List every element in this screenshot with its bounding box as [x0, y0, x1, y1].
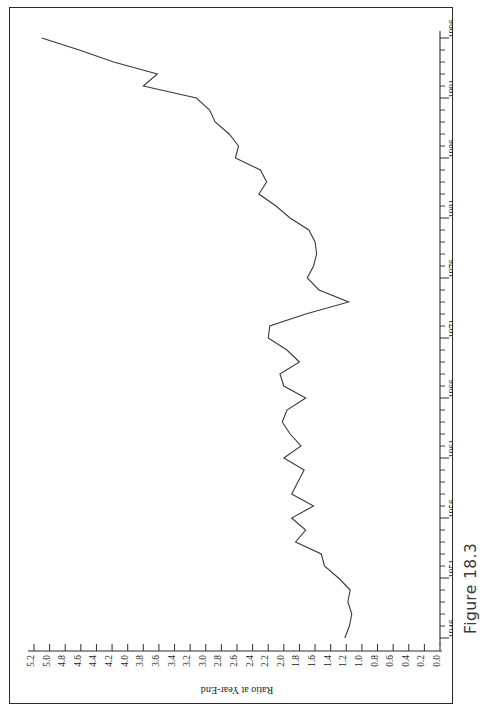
ratio-tick-label: 4.6: [73, 655, 83, 667]
figure-caption: Figure 18.3: [462, 543, 480, 634]
ratio-tick-label: 0.8: [370, 655, 380, 667]
ratio-tick-label: 2.0: [276, 655, 286, 667]
year-tick-label: 1976: [448, 259, 453, 278]
year-tick-label: 1996: [448, 19, 453, 38]
ratio-tick-label: 3.8: [135, 655, 145, 667]
ratio-tick-label: 1.8: [291, 655, 301, 667]
ratio-series-path: [42, 38, 352, 638]
year-tick-label: 1966: [448, 379, 453, 398]
ratio-tick-label: 0.6: [385, 655, 395, 667]
ratio-at-year-end-line-chart: 0.00.20.40.60.81.01.21.41.61.82.02.22.42…: [9, 7, 453, 704]
ratio-tick-label: 3.2: [182, 655, 192, 667]
chart-canvas: 0.00.20.40.60.81.01.21.41.61.82.02.22.42…: [9, 7, 453, 704]
ratio-tick-label: 3.4: [167, 655, 177, 667]
ratio-axis-title: Ratio at Year-End: [201, 685, 274, 696]
year-tick-label: 1961: [448, 439, 453, 458]
ratio-tick-label: 2.4: [245, 655, 255, 667]
ratio-tick-label: 1.0: [354, 655, 364, 667]
ratio-tick-label: 5.0: [42, 655, 52, 667]
ratio-tick-label: 2.2: [260, 655, 270, 667]
ratio-tick-label: 1.2: [338, 655, 348, 667]
year-tick-label: 1956: [448, 499, 453, 518]
ratio-tick-label: 1.6: [307, 655, 317, 667]
ratio-axis: 0.00.20.40.60.81.01.21.41.61.82.02.22.42…: [26, 644, 442, 667]
year-tick-label: 1981: [448, 199, 453, 218]
ratio-tick-label: 3.6: [151, 655, 161, 667]
ratio-tick-label: 4.8: [57, 655, 67, 667]
ratio-tick-label: 1.4: [323, 655, 333, 667]
year-axis: 1946195119561961196619711976198119861991…: [440, 19, 453, 645]
ratio-tick-label: 4.0: [120, 655, 130, 667]
ratio-tick-label: 5.2: [26, 655, 36, 667]
data-series-line: [42, 38, 352, 638]
ratio-tick-label: 0.2: [416, 655, 426, 667]
ratio-tick-label: 0.4: [401, 655, 411, 667]
ratio-tick-label: 4.2: [104, 655, 114, 667]
ratio-tick-label: 2.6: [229, 655, 239, 667]
figure-page: 0.00.20.40.60.81.01.21.41.61.82.02.22.42…: [0, 0, 502, 723]
ratio-tick-label: 2.8: [213, 655, 223, 667]
year-tick-label: 1946: [448, 619, 453, 638]
year-tick-label: 1991: [448, 79, 453, 98]
ratio-tick-label: 4.4: [88, 655, 98, 667]
year-tick-label: 1986: [448, 139, 453, 158]
ratio-tick-label: 3.0: [198, 655, 208, 667]
year-tick-label: 1971: [448, 319, 453, 338]
year-tick-label: 1951: [448, 559, 453, 578]
ratio-tick-label: 0.0: [432, 655, 442, 667]
